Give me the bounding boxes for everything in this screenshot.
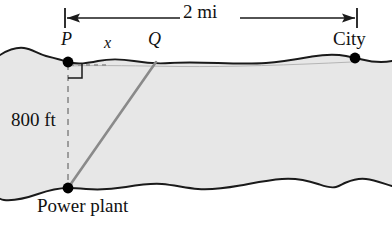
marker-point-power-plant [63,183,74,194]
label-city: City [333,29,366,48]
label-point-q: Q [148,30,161,48]
marker-point-city [350,53,361,64]
label-depth-800ft: 800 ft [11,110,56,129]
label-segment-x: x [104,35,111,51]
label-distance-2mi: 2 mi [183,2,217,21]
marker-point-p [63,57,74,68]
label-point-p: P [61,30,72,48]
label-power-plant: Power plant [37,196,128,215]
water-region [0,48,392,200]
